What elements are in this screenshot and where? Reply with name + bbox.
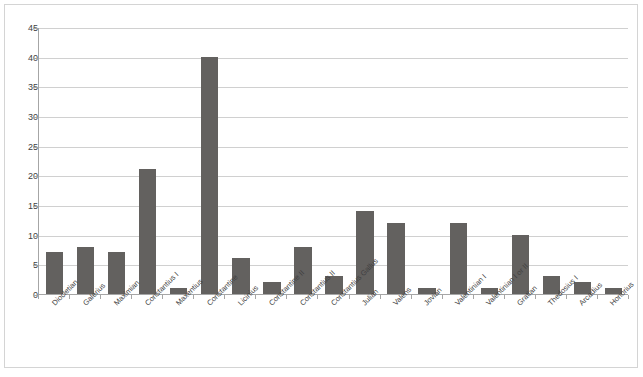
x-axis-tick-mark [442, 295, 443, 299]
x-axis-tick-mark [224, 295, 225, 299]
x-axis-tick-mark [255, 295, 256, 299]
x-axis-tick-label: Maxentius [174, 277, 205, 308]
x-axis-tick-mark [535, 295, 536, 299]
x-axis-tick-mark [317, 295, 318, 299]
x-axis-tick-mark [349, 295, 350, 299]
y-axis: 051015202530354045 [5, 5, 38, 296]
x-axis-tick-mark [380, 295, 381, 299]
x-axis-tick-label: Honorius [608, 280, 636, 308]
x-axis-tick-mark [162, 295, 163, 299]
x-axis-tick-label: Maximian [112, 278, 141, 307]
x-axis-tick-mark [628, 295, 629, 299]
x-axis-tick-mark [100, 295, 101, 299]
x-axis-tick-label: Constantine [205, 273, 240, 308]
x-axis-tick-label: Arcadius [577, 280, 604, 307]
x-axis-tick-label: Valentinian I [453, 272, 488, 307]
x-axis-tick-label: Diocletian [50, 278, 80, 308]
x-axis-tick-mark [69, 295, 70, 299]
x-axis-labels: DiocletianGaleriusMaximianConstantius IM… [38, 5, 628, 377]
x-axis-tick-label: Thedosius I [546, 274, 580, 308]
chart-frame: 051015202530354045 DiocletianGaleriusMax… [4, 4, 638, 368]
x-axis-tick-label: Galerius [81, 281, 107, 307]
x-axis-tick-mark [131, 295, 132, 299]
x-axis-tick-label: Julian [360, 287, 380, 307]
x-axis-tick-mark [286, 295, 287, 299]
x-axis-tick-mark [38, 295, 39, 299]
x-axis-tick-mark [473, 295, 474, 299]
x-axis-tick-label: Jovian [422, 286, 444, 308]
x-axis-tick-mark [504, 295, 505, 299]
x-axis-tick-mark [597, 295, 598, 299]
x-axis-tick-mark [566, 295, 567, 299]
x-axis-tick-mark [193, 295, 194, 299]
x-axis-tick-mark [411, 295, 412, 299]
